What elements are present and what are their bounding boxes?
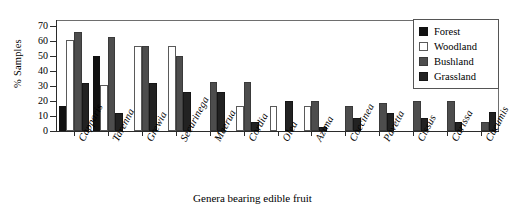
x-tick-mark: [278, 132, 279, 136]
bar-forest: [59, 106, 67, 131]
y-tick-label: 40: [2, 66, 48, 76]
y-tick-label: 20: [2, 96, 48, 106]
bar-woodland: [134, 46, 142, 131]
x-tick-mark: [379, 132, 380, 136]
y-tick-mark: [50, 86, 56, 87]
x-tick-mark: [345, 132, 346, 136]
y-tick-label: 60: [2, 36, 48, 46]
bar-group: [59, 20, 89, 131]
y-tick-mark: [50, 101, 56, 102]
y-tick-mark: [50, 26, 56, 27]
x-tick-mark: [447, 132, 448, 136]
legend-swatch-bushland-icon: [419, 57, 428, 66]
y-tick-label: 30: [2, 81, 48, 91]
legend-label-grassland: Grassland: [434, 71, 476, 82]
bar-bushland: [74, 32, 82, 131]
x-tick-mark: [210, 132, 211, 136]
bar-woodland: [270, 106, 278, 131]
y-tick-mark: [50, 41, 56, 42]
bar-bushland: [142, 46, 150, 131]
legend-label-forest: Forest: [434, 26, 460, 37]
bar-woodland: [304, 106, 312, 131]
x-axis-title: Genera bearing edible fruit: [0, 192, 505, 204]
chart-legend: Forest Woodland Bushland Grassland: [413, 19, 499, 89]
x-tick-mark: [142, 132, 143, 136]
bar-woodland: [66, 40, 74, 131]
y-tick-label: 0: [2, 126, 48, 136]
y-tick-label: 10: [2, 111, 48, 121]
bar-group: [330, 20, 360, 131]
x-tick-mark: [413, 132, 414, 136]
x-tick-mark: [74, 132, 75, 136]
x-tick-mark: [244, 132, 245, 136]
bar-woodland: [236, 106, 244, 131]
y-tick-label: 50: [2, 51, 48, 61]
legend-swatch-grassland-icon: [419, 72, 428, 81]
bar-group: [296, 20, 326, 131]
x-tick-mark: [311, 132, 312, 136]
x-tick-mark: [108, 132, 109, 136]
bar-bushland: [447, 101, 455, 131]
legend-label-bushland: Bushland: [434, 56, 474, 67]
bar-bushland: [176, 56, 184, 131]
y-tick-mark: [50, 116, 56, 117]
bar-bushland: [244, 82, 252, 131]
legend-item-forest: Forest: [419, 24, 493, 39]
x-tick-mark: [481, 132, 482, 136]
y-tick-mark: [50, 56, 56, 57]
legend-item-bushland: Bushland: [419, 54, 493, 69]
legend-label-woodland: Woodland: [434, 41, 477, 52]
legend-swatch-woodland-icon: [419, 42, 428, 51]
y-axis-title: % Samples: [12, 19, 23, 109]
y-tick-mark: [50, 131, 56, 132]
y-tick-mark: [50, 71, 56, 72]
bar-bushland: [210, 82, 218, 131]
x-tick-mark: [176, 132, 177, 136]
legend-swatch-forest-icon: [419, 27, 428, 36]
legend-item-woodland: Woodland: [419, 39, 493, 54]
legend-item-grassland: Grassland: [419, 69, 493, 84]
bar-bushland: [108, 37, 116, 131]
y-tick-label: 70: [2, 21, 48, 31]
bar-woodland: [168, 46, 176, 131]
